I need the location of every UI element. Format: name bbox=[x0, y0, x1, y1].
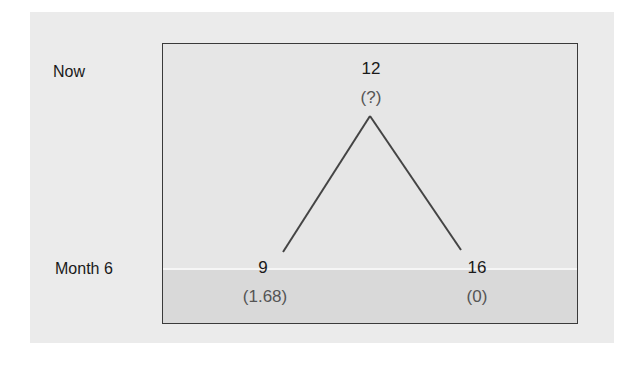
left-leaf-value: 9 bbox=[258, 258, 267, 278]
tree-edges bbox=[0, 0, 644, 373]
root-value: 12 bbox=[362, 59, 381, 79]
edge-root-right bbox=[370, 116, 461, 250]
root-sub: (?) bbox=[361, 88, 382, 108]
right-leaf-sub: (0) bbox=[467, 287, 488, 307]
right-leaf-value: 16 bbox=[468, 258, 487, 278]
left-leaf-sub: (1.68) bbox=[243, 287, 287, 307]
edge-root-left bbox=[283, 116, 370, 252]
